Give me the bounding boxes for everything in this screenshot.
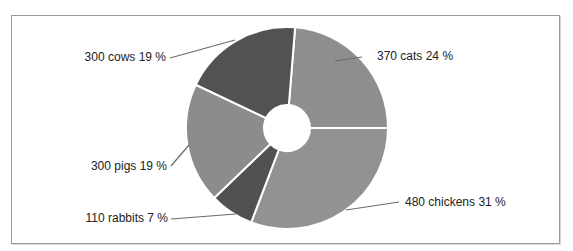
label-cats: 370 cats 24 % <box>377 49 453 63</box>
label-chickens: 480 chickens 31 % <box>405 195 506 209</box>
slice-chickens <box>251 128 388 229</box>
label-pigs: 300 pigs 19 % <box>91 159 167 173</box>
leader-line-pigs <box>171 145 189 166</box>
slice-cats <box>289 27 388 128</box>
donut-chart: 370 cats 24 % 480 chickens 31 % 110 rabb… <box>0 0 573 251</box>
label-rabbits: 110 rabbits 7 % <box>86 211 169 225</box>
leader-line-rabbits <box>171 214 236 219</box>
label-cows: 300 cows 19 % <box>85 50 167 64</box>
